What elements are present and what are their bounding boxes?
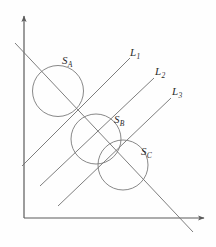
label-L2: L2 — [155, 66, 165, 77]
circles-group — [33, 66, 149, 191]
label-L3-subscript: 3 — [178, 91, 182, 100]
line-L2 — [40, 78, 154, 186]
label-SC-text: S — [141, 145, 147, 157]
label-SA: SA — [62, 55, 72, 66]
label-L2-subscript: 2 — [161, 71, 165, 80]
label-L1: L1 — [130, 47, 140, 58]
label-SA-subscript: A — [68, 60, 73, 69]
label-SC: SC — [141, 146, 152, 157]
label-SB-subscript: B — [120, 119, 125, 128]
label-SB-text: S — [114, 113, 120, 125]
geometry-diagram: L1 L2 L3 SA SB SC — [0, 0, 216, 247]
label-L1-subscript: 1 — [136, 52, 140, 61]
label-L3: L3 — [172, 86, 182, 97]
label-SA-text: S — [62, 54, 68, 66]
diagram-canvas — [0, 0, 216, 247]
label-SC-subscript: C — [147, 151, 152, 160]
label-SB: SB — [114, 114, 124, 125]
line-L1 — [22, 58, 130, 166]
circle-SA — [33, 66, 84, 117]
